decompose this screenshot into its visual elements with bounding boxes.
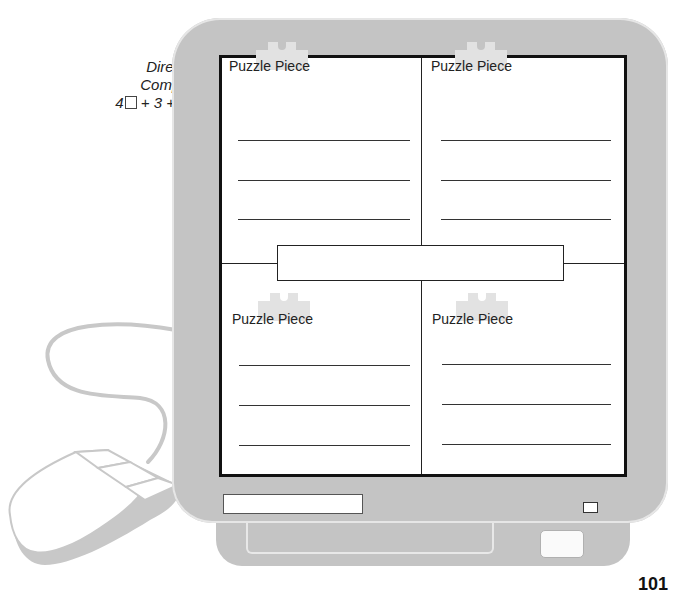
main-idea-box[interactable] — [277, 245, 564, 281]
panel-title-top-left: Puzzle Piece — [229, 58, 310, 74]
answer-line[interactable] — [442, 444, 611, 445]
square-symbol — [125, 96, 137, 109]
answer-line[interactable] — [441, 180, 611, 181]
answer-line[interactable] — [238, 140, 410, 141]
mouse-cord — [47, 324, 176, 462]
panel-title-top-right: Puzzle Piece — [431, 58, 512, 74]
answer-line[interactable] — [441, 140, 611, 141]
answer-line[interactable] — [239, 405, 410, 406]
power-button — [540, 530, 584, 558]
answer-line[interactable] — [238, 180, 410, 181]
stand-tray — [246, 522, 494, 554]
page-number: 101 — [638, 574, 668, 594]
answer-line[interactable] — [442, 364, 611, 365]
power-led — [583, 502, 598, 513]
panel-title-bottom-left: Puzzle Piece — [232, 311, 313, 327]
answer-line[interactable] — [239, 445, 410, 446]
bezel-slot — [223, 494, 363, 514]
answer-line[interactable] — [239, 365, 410, 366]
answer-line[interactable] — [442, 404, 611, 405]
panel-title-bottom-right: Puzzle Piece — [432, 311, 513, 327]
answer-line[interactable] — [441, 219, 611, 220]
answer-line[interactable] — [238, 219, 410, 220]
